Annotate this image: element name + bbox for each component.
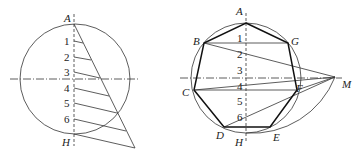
- right-division-6: 6: [237, 111, 243, 123]
- heptagon-construction-figure: A H 1 2 3 4 5 6 A B G C F D E H M 1 2 3 …: [0, 0, 356, 160]
- right-division-2: 2: [237, 48, 243, 60]
- hatch-line-1: [74, 41, 83, 43]
- right-label-B: B: [193, 35, 200, 47]
- left-triangle-base: [74, 134, 135, 148]
- left-triangle-hypotenuse: [74, 24, 135, 148]
- right-label-M: M: [341, 78, 352, 90]
- right-diagram: [180, 13, 342, 142]
- heptagon: [194, 23, 297, 127]
- right-division-5: 5: [237, 95, 243, 107]
- right-label-A: A: [235, 5, 243, 17]
- right-label-H: H: [234, 136, 244, 148]
- hatch-line-3: [74, 72, 100, 78]
- hatch-line-5: [74, 103, 117, 113]
- hatch-line-6: [74, 119, 126, 131]
- left-diagram: [10, 14, 140, 148]
- left-division-5: 5: [64, 97, 70, 109]
- arc-H-M: [246, 77, 335, 133]
- left-division-3: 3: [64, 66, 70, 78]
- line-B-M: [204, 43, 335, 77]
- hatch-line-2: [74, 57, 91, 60]
- left-division-6: 6: [64, 113, 70, 125]
- right-division-4: 4: [237, 80, 243, 92]
- left-label-A: A: [63, 12, 71, 24]
- line-C-M: [194, 77, 335, 90]
- right-division-3: 3: [237, 64, 243, 76]
- right-label-C: C: [182, 86, 190, 98]
- right-label-E: E: [272, 131, 280, 143]
- right-label-D: D: [215, 129, 224, 141]
- left-division-2: 2: [64, 51, 70, 63]
- right-label-G: G: [291, 35, 299, 47]
- right-label-F: F: [295, 82, 303, 94]
- hatch-line-4: [74, 88, 109, 96]
- left-label-H: H: [61, 136, 71, 148]
- right-division-1: 1: [237, 32, 243, 44]
- left-division-1: 1: [64, 35, 70, 47]
- left-division-4: 4: [64, 82, 70, 94]
